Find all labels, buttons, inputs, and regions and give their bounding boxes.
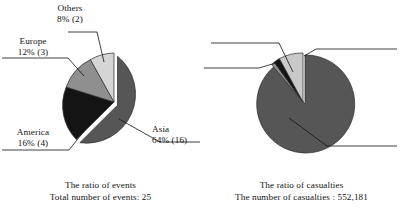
- leader-line-casualties-america: [204, 62, 279, 68]
- leader-line-events-europe: [2, 58, 84, 76]
- pie-slice-casualties-asia: [257, 55, 355, 153]
- leader-line-casualties-others: [304, 49, 397, 56]
- pie-label-events-asia-value: 64% (16): [152, 135, 200, 146]
- pie-label-events-europe-value: 12% (3): [2, 47, 64, 58]
- pie-label-events-europe-name: Europe: [2, 36, 64, 47]
- caption-events-line1: The ratio of events: [0, 180, 201, 192]
- caption-casualties-line2: The number of casualties : 552,181: [201, 192, 402, 204]
- caption-casualties-line1: The ratio of casualties: [201, 180, 402, 192]
- pie-label-events-others-name: Others: [38, 3, 102, 14]
- pie-events-graphic: [0, 0, 201, 180]
- pie-label-events-america-value: 16% (4): [1, 138, 65, 149]
- pie-label-events-america-name: America: [1, 127, 65, 138]
- pie-chart-casualties: Europe 8% (42,300) Others 1% (4,866) Ame…: [201, 0, 402, 210]
- pie-label-events-others: Others 8% (2): [38, 3, 102, 25]
- two-pie-chart-figure: Others 8% (2) Europe 12% (3) America 16%…: [0, 0, 402, 210]
- pie-label-events-others-value: 8% (2): [38, 14, 102, 25]
- pie-label-events-asia-name: Asia: [152, 124, 200, 135]
- pie-label-events-asia: Asia 64% (16): [152, 124, 200, 146]
- pie-label-events-europe: Europe 12% (3): [2, 36, 64, 58]
- caption-events: The ratio of events Total number of even…: [0, 180, 201, 203]
- pie-chart-events: Others 8% (2) Europe 12% (3) America 16%…: [0, 0, 201, 210]
- pie-label-events-america: America 16% (4): [1, 127, 65, 149]
- caption-casualties: The ratio of casualties The number of ca…: [201, 180, 402, 203]
- pie-casualties-graphic: [201, 0, 402, 180]
- caption-events-line2: Total number of events: 25: [0, 192, 201, 204]
